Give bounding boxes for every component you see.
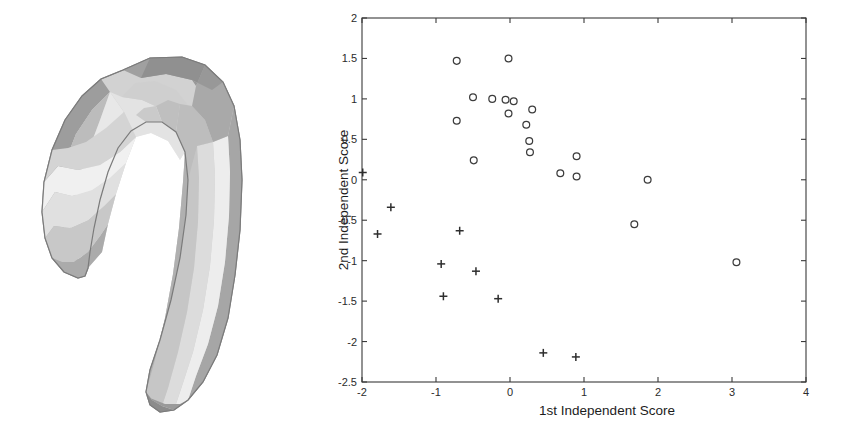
marker-circle <box>502 96 509 103</box>
data-points <box>359 55 740 361</box>
series-group-circles <box>453 55 740 266</box>
marker-circle <box>733 259 740 266</box>
marker-circle <box>527 149 534 156</box>
marker-circle <box>573 173 580 180</box>
y-tick-label: 0 <box>351 174 357 186</box>
marker-circle <box>529 106 536 113</box>
y-tick-label: -2.5 <box>338 376 357 388</box>
y-tick-label: -2 <box>347 336 357 348</box>
marker-circle <box>470 157 477 164</box>
x-axis-label: 1st Independent Score <box>539 403 675 418</box>
x-tick-label: -2 <box>357 386 367 398</box>
marker-circle <box>631 221 638 228</box>
3d-surface-render <box>0 0 330 448</box>
y-axis-label: 2nd Independent Score <box>336 130 351 270</box>
y-tick-label: -1.5 <box>338 295 357 307</box>
scatter-plot: -2-101234 -2.5-2-1.5-1-0.500.511.52 1st … <box>330 0 841 448</box>
marker-circle <box>505 110 512 117</box>
marker-circle <box>644 176 651 183</box>
x-tick-label: 2 <box>655 386 661 398</box>
x-tick-label: 0 <box>507 386 513 398</box>
marker-circle <box>489 95 496 102</box>
y-tick-label: 1 <box>351 93 357 105</box>
y-tick-label: 1.5 <box>342 52 357 64</box>
plot-frame <box>362 18 806 382</box>
figure-root: -2-101234 -2.5-2-1.5-1-0.500.511.52 1st … <box>0 0 841 448</box>
x-tick-label: 1 <box>581 386 587 398</box>
marker-circle <box>453 57 460 64</box>
y-tick-label: 2 <box>351 12 357 24</box>
x-tick-label: 4 <box>803 386 809 398</box>
x-tick-label: -1 <box>431 386 441 398</box>
marker-circle <box>510 98 517 105</box>
y-axis-ticks: -2.5-2-1.5-1-0.500.511.52 <box>338 12 806 388</box>
x-tick-label: 3 <box>729 386 735 398</box>
marker-circle <box>557 170 564 177</box>
marker-circle <box>453 117 460 124</box>
marker-circle <box>523 121 530 128</box>
3d-surface-svg <box>0 0 330 448</box>
marker-circle <box>505 55 512 62</box>
marker-circle <box>470 94 477 101</box>
marker-circle <box>526 138 533 145</box>
series-group-plus <box>359 168 580 360</box>
scatter-plot-svg: -2-101234 -2.5-2-1.5-1-0.500.511.52 1st … <box>330 0 841 448</box>
plot-box <box>362 18 806 382</box>
marker-circle <box>573 153 580 160</box>
x-axis-ticks: -2-101234 <box>357 18 809 398</box>
